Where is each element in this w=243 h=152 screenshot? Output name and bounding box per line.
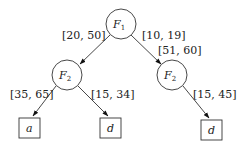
edge-label-root-left: [20, 50]: [62, 29, 106, 42]
leaf-d-middle-label: d: [107, 122, 114, 135]
leaf-d-middle: d: [100, 118, 121, 138]
node-root-var: F: [112, 18, 121, 31]
node-root-sub: 1: [121, 24, 125, 32]
leaf-d-right-label: d: [208, 124, 215, 137]
edge-label-left-leaf1: [35, 65]: [10, 88, 54, 101]
node-right-sub: 2: [172, 75, 176, 83]
decision-tree-diagram: [20, 50] [10, 19] [51, 60] [35, 65] [15,…: [0, 0, 243, 152]
node-left: F2: [52, 60, 82, 90]
leaf-a-label: a: [26, 122, 33, 135]
node-root: F1: [106, 9, 136, 39]
node-right-var: F: [163, 69, 172, 82]
edge-label-root-right-2: [51, 60]: [158, 44, 202, 57]
node-left-sub: 2: [67, 75, 71, 83]
leaf-a: a: [19, 118, 40, 138]
node-right: F2: [157, 60, 187, 90]
edge-label-left-leaf2: [15, 34]: [91, 88, 135, 101]
leaf-d-right: d: [201, 120, 222, 140]
edge-label-right-leaf3: [15, 45]: [193, 88, 237, 101]
edge-label-root-right: [10, 19]: [142, 29, 186, 42]
node-left-var: F: [58, 69, 67, 82]
